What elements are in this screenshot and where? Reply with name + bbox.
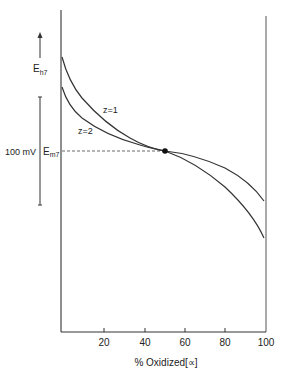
eh7-label: Eh7: [33, 63, 48, 76]
eh7-arrow-icon: [38, 32, 43, 58]
svg-text:100: 100: [258, 337, 275, 348]
svg-text:20: 20: [98, 337, 110, 348]
svg-text:60: 60: [179, 337, 191, 348]
svg-text:80: 80: [219, 337, 231, 348]
chart-canvas: 20 40 60 80 100 % Oxidized[∝] Eh7 100 mV…: [0, 0, 283, 375]
x-tick-labels: 20 40 60 80 100: [98, 337, 274, 348]
series-z1-label: z=1: [103, 105, 118, 115]
x-axis-label: % Oxidized[∝]: [134, 357, 197, 368]
series-z2-curve: [62, 87, 264, 201]
em7-label: Em7: [43, 146, 60, 158]
scale-bar-label: 100 mV: [5, 147, 36, 157]
series-z2-label: z=2: [78, 126, 93, 136]
x-ticks: [104, 328, 225, 332]
svg-text:40: 40: [139, 337, 151, 348]
midpoint-dot: [162, 148, 168, 154]
series-z1-curve: [62, 57, 264, 238]
scale-bar: [38, 97, 42, 205]
